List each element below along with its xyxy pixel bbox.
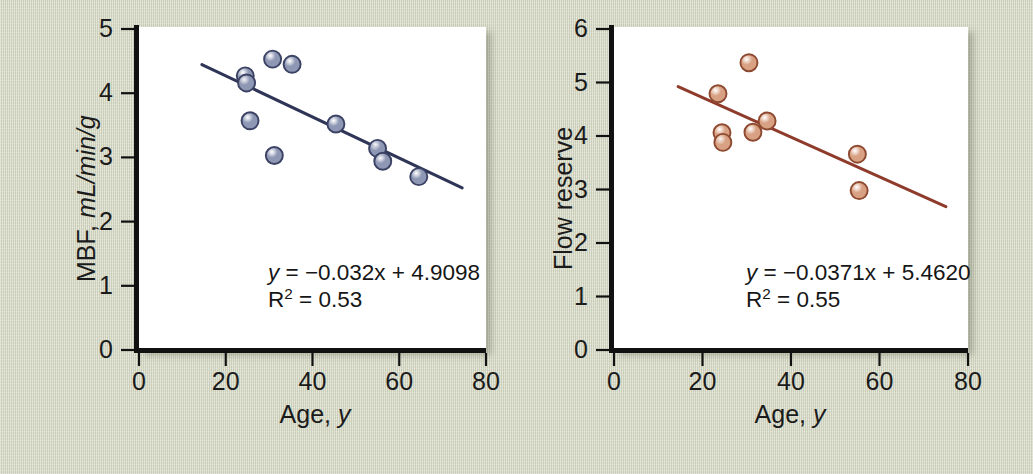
x-tick-label: 0 bbox=[99, 369, 179, 394]
data-point bbox=[709, 85, 726, 102]
r-squared-mbf: R2 = 0.53 bbox=[268, 286, 480, 313]
y-axis-title-text: MBF, bbox=[72, 218, 100, 282]
data-point bbox=[740, 54, 757, 71]
y-tick-label: 4 bbox=[57, 80, 113, 105]
equation-lhs: y bbox=[746, 260, 757, 285]
x-tick-label: 40 bbox=[751, 369, 831, 394]
x-axis-title-text: Age, bbox=[755, 400, 813, 428]
data-point bbox=[410, 168, 427, 185]
x-axis-title-var: y bbox=[813, 400, 826, 428]
data-point bbox=[849, 146, 866, 163]
x-axis-title-text: Age, bbox=[280, 400, 338, 428]
data-point bbox=[744, 124, 761, 141]
regression-annotation-flow-reserve: y = −0.0371x + 5.4620 R2 = 0.55 bbox=[746, 259, 971, 313]
regression-equation-flow-reserve: y = −0.0371x + 5.4620 bbox=[746, 259, 971, 286]
r2-exponent: 2 bbox=[284, 285, 293, 302]
x-tick-label: 0 bbox=[574, 369, 654, 394]
data-point bbox=[264, 51, 281, 68]
y-tick-label: 0 bbox=[532, 337, 588, 362]
equation-lhs: y bbox=[268, 260, 279, 285]
y-axis-title-flow-reserve: Flow reserve bbox=[549, 127, 578, 270]
data-point bbox=[327, 116, 344, 133]
y-tick-label: 1 bbox=[532, 284, 588, 309]
chart-panel-mbf: 020406080012345 MBF, mL/min/g Age, y y =… bbox=[0, 0, 516, 474]
y-tick-label: 6 bbox=[532, 16, 588, 41]
x-tick-label: 20 bbox=[663, 369, 743, 394]
r2-value: = 0.55 bbox=[771, 287, 840, 312]
y-tick-label: 5 bbox=[532, 70, 588, 95]
r-squared-flow-reserve: R2 = 0.55 bbox=[746, 286, 971, 313]
regression-equation-mbf: y = −0.032x + 4.9098 bbox=[268, 259, 480, 286]
regression-annotation-mbf: y = −0.032x + 4.9098 R2 = 0.53 bbox=[268, 259, 480, 313]
r2-value: = 0.53 bbox=[293, 287, 362, 312]
y-tick-label: 5 bbox=[57, 16, 113, 41]
y-tick-label: 0 bbox=[57, 337, 113, 362]
equation-rhs: = −0.0371x + 5.4620 bbox=[757, 260, 970, 285]
x-axis-title-flow-reserve: Age, y bbox=[670, 400, 910, 429]
x-tick-label: 20 bbox=[186, 369, 266, 394]
data-point bbox=[374, 153, 391, 170]
x-axis-title-mbf: Age, y bbox=[195, 400, 435, 429]
x-tick-label: 60 bbox=[840, 369, 920, 394]
y-axis-title-mbf: MBF, mL/min/g bbox=[72, 115, 101, 282]
y-axis-title-units: mL/min/g bbox=[72, 115, 100, 218]
data-point bbox=[759, 113, 776, 130]
r2-exponent: 2 bbox=[762, 285, 771, 302]
y-axis-title-text: Flow reserve bbox=[549, 127, 577, 270]
data-point bbox=[238, 74, 255, 91]
x-tick-label: 80 bbox=[928, 369, 1008, 394]
x-tick-label: 60 bbox=[359, 369, 439, 394]
chart-panel-flow-reserve: 0204060800123456 Flow reserve Age, y y =… bbox=[513, 0, 1029, 474]
figure-root: 020406080012345 MBF, mL/min/g Age, y y =… bbox=[0, 0, 1033, 474]
x-axis-title-var: y bbox=[338, 400, 351, 428]
data-point bbox=[266, 147, 283, 164]
equation-rhs: = −0.032x + 4.9098 bbox=[279, 260, 480, 285]
r2-label: R bbox=[268, 287, 284, 312]
data-point bbox=[714, 134, 731, 151]
data-point bbox=[242, 112, 259, 129]
r2-label: R bbox=[746, 287, 762, 312]
x-tick-label: 40 bbox=[273, 369, 353, 394]
data-point bbox=[851, 182, 868, 199]
data-point bbox=[284, 56, 301, 73]
